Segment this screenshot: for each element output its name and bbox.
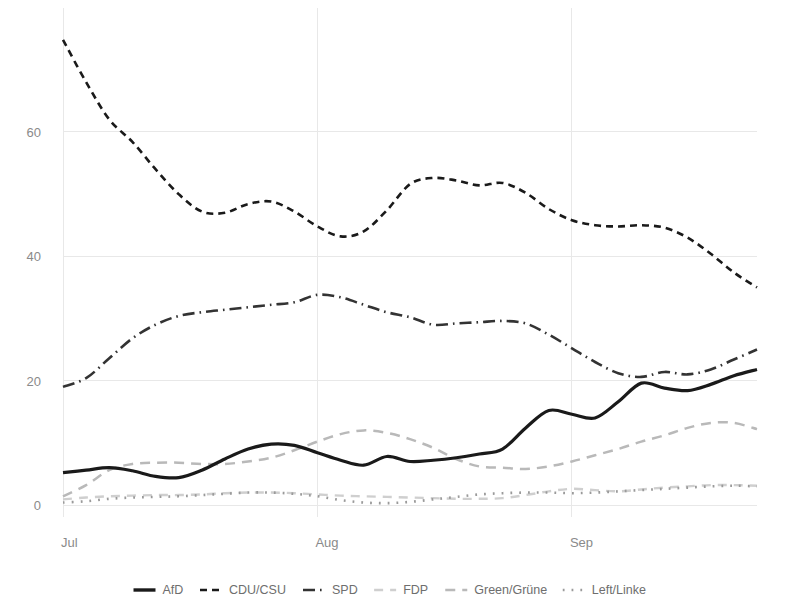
chart-legend: AfDCDU/CSUSPDFDPGreen/GrüneLeft/Linke [134,583,647,597]
legend-label-fdp: FDP [403,583,428,597]
legend-item-fdp[interactable]: FDP [374,583,428,597]
legend-label-left-linke: Left/Linke [592,583,646,597]
legend-item-green-gr-ne[interactable]: Green/Grüne [445,583,547,597]
legend-item-spd[interactable]: SPD [303,583,358,597]
x-axis-labels: JulAugSep [61,535,593,550]
series-line-cdu-csu [63,40,757,287]
series-line-fdp [63,485,757,499]
legend-item-afd[interactable]: AfD [134,583,184,597]
legend-item-left-linke[interactable]: Left/Linke [563,583,646,597]
legend-item-cdu-csu[interactable]: CDU/CSU [200,583,286,597]
x-axis-tick-label: Sep [570,535,593,550]
series-line-green-gr-ne [63,422,757,496]
poll-trend-chart: 0204060 JulAugSep AfDCDU/CSUSPDFDPGreen/… [0,0,787,608]
x-axis-tick-label: Aug [315,535,338,550]
y-axis-tick-label: 60 [27,125,41,140]
legend-label-cdu-csu: CDU/CSU [229,583,286,597]
y-axis-tick-label: 0 [34,498,41,513]
series-line-spd [63,295,757,387]
series-line-afd [63,369,757,478]
y-axis-tick-label: 40 [27,249,41,264]
legend-label-spd: SPD [332,583,358,597]
chart-canvas: 0204060 JulAugSep AfDCDU/CSUSPDFDPGreen/… [0,0,787,608]
y-axis-labels: 0204060 [27,125,41,513]
series-lines [63,40,757,503]
x-axis-tick-label: Jul [61,535,78,550]
grid-lines [63,8,757,517]
y-axis-tick-label: 20 [27,374,41,389]
legend-label-afd: AfD [163,583,184,597]
legend-label-green-gr-ne: Green/Grüne [474,583,547,597]
